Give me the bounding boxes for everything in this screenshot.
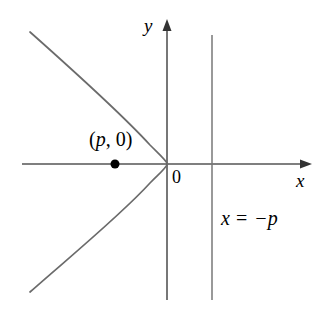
parabola-curve	[30, 32, 168, 292]
directrix-label-equals: =	[230, 207, 254, 229]
directrix-label-variable: x	[221, 207, 230, 229]
focus-label-variable: p	[96, 128, 106, 150]
x-axis-arrowhead	[300, 160, 312, 169]
focus-label-comma: ,	[106, 128, 116, 150]
x-axis-label: x	[296, 171, 304, 190]
diagram-canvas	[0, 0, 321, 325]
focus-label-close-paren: )	[126, 128, 133, 150]
origin-label: 0	[172, 168, 181, 186]
y-axis-arrowhead	[163, 19, 172, 31]
focus-point-label: (p, 0)	[89, 129, 132, 149]
focus-point-dot	[111, 160, 120, 169]
directrix-label-value: −p	[254, 207, 278, 229]
focus-label-zero: 0	[116, 128, 126, 150]
parabola-figure: y x 0 (p, 0) x = −p	[0, 0, 321, 325]
directrix-label: x = −p	[221, 208, 278, 228]
y-axis-label: y	[144, 16, 152, 35]
focus-label-open-paren: (	[89, 128, 96, 150]
